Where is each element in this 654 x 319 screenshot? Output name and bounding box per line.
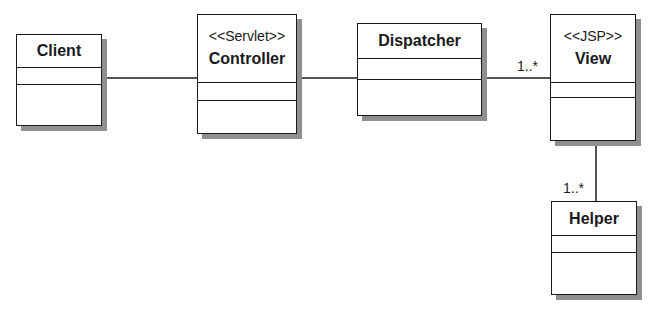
stereotype-label: <<Servlet>> [209,28,285,45]
class-name: Controller [209,49,285,69]
class-name: Client [37,41,81,61]
attributes-compartment [552,235,636,253]
attributes-compartment [358,58,481,80]
uml-diagram: Client <<Servlet>> Controller Dispatcher… [0,0,654,319]
class-name-compartment: <<JSP>> View [551,15,635,83]
class-name-compartment: Dispatcher [358,24,481,59]
class-dispatcher: Dispatcher [357,23,482,116]
class-name: Helper [569,209,619,229]
class-controller: <<Servlet>> Controller [197,14,297,134]
class-name-compartment: <<Servlet>> Controller [198,15,296,83]
attributes-compartment [17,67,101,85]
class-helper: Helper [551,201,637,295]
multiplicity-helper: 1..* [563,180,584,196]
attributes-compartment [198,82,296,101]
attributes-compartment [551,82,635,98]
class-client: Client [16,34,102,126]
class-name-compartment: Helper [552,202,636,236]
multiplicity-view: 1..* [517,58,538,74]
class-view: <<JSP>> View [550,14,636,141]
class-name-compartment: Client [17,35,101,68]
class-name: View [575,49,611,69]
stereotype-label: <<JSP>> [564,28,622,45]
class-name: Dispatcher [378,31,461,51]
